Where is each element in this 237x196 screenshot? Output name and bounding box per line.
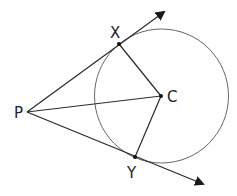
point-c-dot [159,94,163,98]
label-x: X [110,24,120,42]
label-p: P [14,104,23,122]
label-c: C [167,88,177,106]
radius-xc [119,44,161,96]
geometry-diagram: P X C Y [0,0,237,196]
radius-yc [135,96,161,157]
point-x-dot [117,42,121,46]
segment-pc [27,96,161,112]
point-y-dot [133,155,137,159]
tangent-ray-px [27,12,164,112]
tangent-ray-py [27,112,203,184]
label-y: Y [126,164,137,182]
diagram-canvas: P X C Y [0,0,237,196]
